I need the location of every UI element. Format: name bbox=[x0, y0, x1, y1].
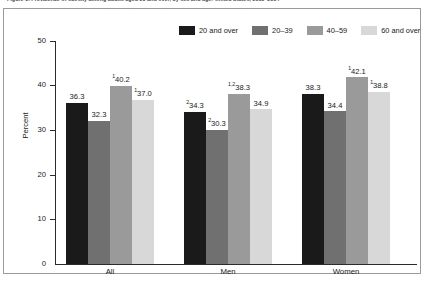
bar-men-20-39[interactable]: 230.3 bbox=[206, 130, 228, 265]
y-tick-mark-30 bbox=[50, 130, 55, 131]
legend-item-20-and-over[interactable]: 20 and over bbox=[179, 26, 238, 35]
bar-label-men-40-59: 1,238.3 bbox=[228, 83, 250, 92]
bar-slot-men-60-and-over: 34.9 bbox=[250, 42, 272, 264]
legend-item-60-and-over[interactable]: 60 and over bbox=[361, 26, 420, 35]
bar-men-40-59[interactable]: 1,238.3 bbox=[228, 94, 250, 264]
legend-swatch-60-and-over bbox=[361, 26, 377, 35]
bar-men-20-and-over[interactable]: 234.3 bbox=[184, 112, 206, 264]
bar-slot-all-40-59: 140.2 bbox=[110, 42, 132, 264]
y-tick-mark-10 bbox=[50, 219, 55, 220]
bar-slot-all-60-and-over: 137.0 bbox=[132, 42, 154, 264]
legend-swatch-20-and-over bbox=[179, 26, 195, 35]
bar-label-men-60-and-over: 34.9 bbox=[254, 99, 269, 108]
bar-slot-men-20-and-over: 234.3 bbox=[184, 42, 206, 264]
x-axis-line bbox=[55, 264, 417, 265]
bar-label-women-20-39: 34.4 bbox=[328, 101, 343, 110]
x-axis-label-all: All bbox=[66, 267, 154, 276]
bar-men-60-and-over[interactable]: 34.9 bbox=[250, 109, 272, 264]
y-axis-title: Percent bbox=[21, 86, 30, 166]
bar-label-women-60-and-over: 138.8 bbox=[370, 81, 388, 90]
x-axis-label-men: Men bbox=[184, 267, 272, 276]
bar-label-all-40-59: 140.2 bbox=[112, 75, 130, 84]
bar-women-40-59[interactable]: 142.1 bbox=[346, 77, 368, 264]
bar-slot-all-20-39: 32.3 bbox=[88, 42, 110, 264]
bar-slot-women-20-39: 34.4 bbox=[324, 42, 346, 264]
y-tick-mark-40 bbox=[50, 85, 55, 86]
x-axis-label-women: Women bbox=[302, 267, 390, 276]
y-tick-label-10: 10 bbox=[24, 214, 46, 223]
bar-women-60-and-over[interactable]: 138.8 bbox=[368, 92, 390, 264]
legend-label-40-59: 40–59 bbox=[327, 26, 348, 35]
legend-label-20-and-over: 20 and over bbox=[199, 26, 238, 35]
legend-item-40-59[interactable]: 40–59 bbox=[307, 26, 348, 35]
legend-item-20-39[interactable]: 20–39 bbox=[252, 26, 293, 35]
bar-label-all-60-and-over: 137.0 bbox=[134, 89, 152, 98]
figure-title: Figure 1. Prevalence of obesity among ad… bbox=[7, 0, 279, 2]
y-tick-label-0: 0 bbox=[24, 259, 46, 268]
bar-all-60-and-over[interactable]: 137.0 bbox=[132, 100, 154, 264]
chart-legend: 20 and over 20–39 40–59 60 and over bbox=[179, 26, 425, 35]
bar-label-women-20-and-over: 38.3 bbox=[306, 83, 321, 92]
bar-label-men-20-39: 230.3 bbox=[208, 119, 226, 128]
chart-panel: 20 and over 20–39 40–59 60 and over 50 4… bbox=[3, 8, 421, 274]
bar-label-men-20-and-over: 234.3 bbox=[186, 101, 204, 110]
legend-swatch-40-59 bbox=[307, 26, 323, 35]
legend-swatch-20-39 bbox=[252, 26, 268, 35]
bar-label-all-20-and-over: 36.3 bbox=[70, 92, 85, 101]
bar-all-40-59[interactable]: 140.2 bbox=[110, 86, 132, 265]
plot-area: 36.3 32.3 140.2 137.0 234.3 230.3 bbox=[56, 42, 416, 264]
y-tick-mark-20 bbox=[50, 175, 55, 176]
bar-women-20-and-over[interactable]: 38.3 bbox=[302, 94, 324, 264]
bar-label-women-40-59: 142.1 bbox=[348, 67, 366, 76]
bar-slot-women-60-and-over: 138.8 bbox=[368, 42, 390, 264]
legend-label-60-and-over: 60 and over bbox=[381, 26, 420, 35]
legend-label-20-39: 20–39 bbox=[272, 26, 293, 35]
bar-label-all-20-39: 32.3 bbox=[92, 110, 107, 119]
y-tick-label-20: 20 bbox=[24, 170, 46, 179]
bar-slot-men-20-39: 230.3 bbox=[206, 42, 228, 264]
figure-title-strip: Figure 1. Prevalence of obesity among ad… bbox=[0, 0, 425, 7]
bar-slot-women-20-and-over: 38.3 bbox=[302, 42, 324, 264]
y-tick-label-50: 50 bbox=[24, 36, 46, 45]
bar-women-20-39[interactable]: 34.4 bbox=[324, 111, 346, 264]
y-tick-mark-50 bbox=[50, 41, 55, 42]
bar-slot-women-40-59: 142.1 bbox=[346, 42, 368, 264]
bar-slot-men-40-59: 1,238.3 bbox=[228, 42, 250, 264]
bar-all-20-and-over[interactable]: 36.3 bbox=[66, 103, 88, 264]
bar-slot-all-20-and-over: 36.3 bbox=[66, 42, 88, 264]
bar-all-20-39[interactable]: 32.3 bbox=[88, 121, 110, 264]
